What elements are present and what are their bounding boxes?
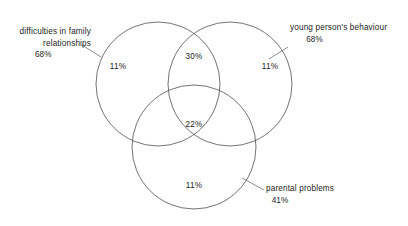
set-label-family-line2: relationships bbox=[20, 38, 91, 50]
set-label-family-line1: difficulties in family bbox=[20, 26, 91, 38]
set-label-behaviour-percent: 68% bbox=[290, 34, 387, 46]
set-label-family: difficulties in family relationships 68% bbox=[20, 26, 91, 61]
set-label-behaviour-line1: young person's behaviour bbox=[290, 22, 387, 34]
leader-line-behaviour bbox=[269, 47, 288, 59]
set-label-family-percent: 68% bbox=[20, 49, 91, 61]
venn-diagram: 11% 11% 11% 30% 22% difficulties in fami… bbox=[0, 0, 408, 226]
region-label-family-only: 11% bbox=[110, 62, 126, 71]
region-label-family-behaviour: 30% bbox=[186, 52, 203, 61]
region-label-all-three: 22% bbox=[186, 120, 203, 129]
circle-parental bbox=[132, 85, 256, 209]
leader-line-parental bbox=[242, 178, 264, 190]
set-label-behaviour: young person's behaviour 68% bbox=[290, 22, 387, 45]
region-label-behaviour-only: 11% bbox=[262, 62, 278, 71]
set-label-parental: parental problems 41% bbox=[266, 183, 334, 206]
set-label-parental-line1: parental problems bbox=[266, 183, 334, 195]
region-label-parental-only: 11% bbox=[186, 181, 202, 190]
set-label-parental-percent: 41% bbox=[266, 195, 334, 207]
